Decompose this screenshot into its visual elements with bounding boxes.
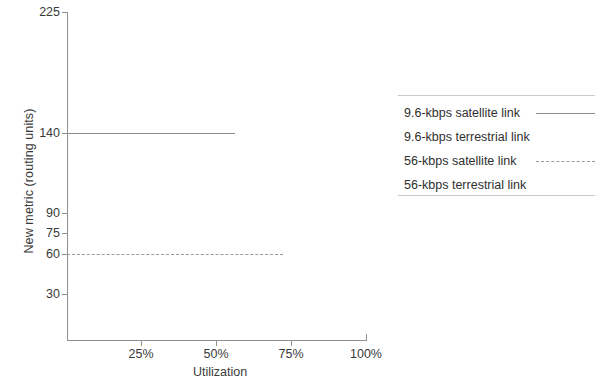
x-tick-mark-25 [141,340,142,346]
y-tick-label-30: 30 [14,288,60,301]
legend-swatch-solid-line [536,113,595,114]
y-tick-label-225: 225 [14,6,60,19]
legend-item-56-kbps-terrestrial-link: 56-kbps terrestrial link [404,173,595,197]
chart-figure: New metric (routing units) 225 140 90 75… [0,0,595,388]
legend-swatch-blank-2 [536,185,595,186]
x-tick-label-50: 50% [186,348,246,361]
y-tick-mark-75 [62,233,68,234]
y-tick-label-60: 60 [14,248,60,261]
legend-item-9.6-kbps-satellite-link: 9.6-kbps satellite link [404,101,595,125]
y-axis-line [67,12,68,341]
y-tick-label-90: 90 [14,207,60,220]
x-tick-mark-75 [291,340,292,346]
series-line-9.6-kbps-satellite [67,133,235,134]
y-tick-mark-225 [62,12,68,13]
series-line-56-kbps-satellite [67,254,283,255]
legend-label-9.6-kbps-terrestrial-link: 9.6-kbps terrestrial link [404,130,536,144]
y-axis-title: New metric (routing units) [22,66,36,296]
legend: 9.6-kbps satellite link 9.6-kbps terrest… [398,95,595,196]
y-tick-label-75: 75 [14,227,60,240]
legend-label-56-kbps-satellite-link: 56-kbps satellite link [404,154,536,168]
legend-top-border [398,95,595,96]
y-tick-mark-90 [62,213,68,214]
legend-swatch-dashed-line [536,161,595,162]
legend-label-9.6-kbps-satellite-link: 9.6-kbps satellite link [404,106,536,120]
legend-swatch-blank-1 [536,137,595,138]
legend-item-56-kbps-satellite-link: 56-kbps satellite link [404,149,595,173]
y-tick-mark-30 [62,294,68,295]
x-axis-line [67,340,367,341]
x-tick-label-25: 25% [111,348,171,361]
x-tick-label-75: 75% [261,348,321,361]
x-tick-label-100: 100% [336,348,396,361]
x-tick-mark-50 [216,340,217,346]
x-axis-title: Utilization [120,365,320,379]
x-axis-right-cap [366,334,367,341]
legend-item-9.6-kbps-terrestrial-link: 9.6-kbps terrestrial link [404,125,595,149]
legend-label-56-kbps-terrestrial-link: 56-kbps terrestrial link [404,178,536,192]
y-tick-label-140: 140 [14,127,60,140]
